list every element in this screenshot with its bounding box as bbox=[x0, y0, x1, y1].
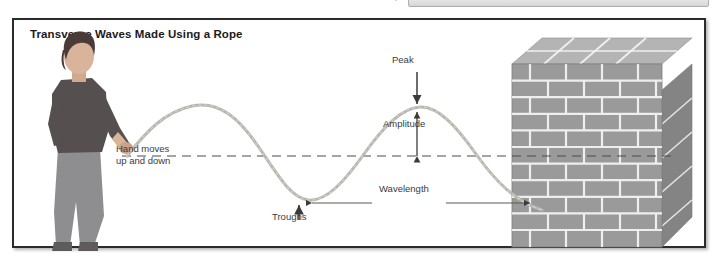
figure-frame: Transverse Waves Made Using a Rope bbox=[12, 18, 706, 248]
woman-holding-rope bbox=[48, 32, 133, 251]
label-hand-moves-line1: Hand moves bbox=[116, 143, 170, 155]
rope-wave-curve bbox=[127, 105, 542, 210]
label-peak: Peak bbox=[392, 54, 414, 66]
label-wavelength: Wavelength bbox=[376, 183, 432, 195]
caret-down-icon bbox=[392, 0, 400, 1]
label-hand-moves-line2: up and down bbox=[116, 155, 170, 167]
brick-wall bbox=[512, 38, 692, 247]
top-toolbar-strip[interactable] bbox=[408, 0, 709, 7]
diagram-stage: Peak Amplitude Wavelength Troughs Hand m… bbox=[14, 20, 704, 246]
wave-diagram bbox=[14, 20, 704, 246]
label-amplitude: Amplitude bbox=[383, 118, 425, 130]
label-troughs: Troughs bbox=[272, 211, 307, 223]
label-hand-moves: Hand moves up and down bbox=[116, 143, 170, 166]
screenshot-root: Transverse Waves Made Using a Rope bbox=[0, 0, 721, 264]
